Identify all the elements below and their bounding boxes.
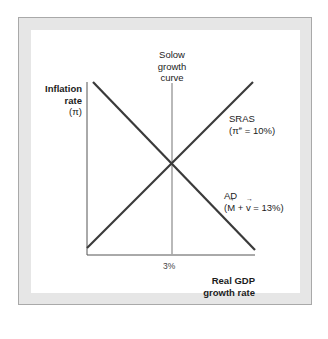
sras-label: SRAS (πe = 10%) [229,113,275,136]
solow-curve-label: Solow growth curve [140,49,204,84]
ad-expression: (M + v = 13%) [224,202,284,214]
ad-money-growth-vector: M [227,202,235,214]
x-axis-label-line2: growth rate [190,287,255,299]
y-axis-label-line3: (π) [36,106,82,118]
sras-value: = 10%) [242,125,275,136]
solow-label-line2: growth [140,61,204,73]
x-axis-label: Real GDP growth rate [190,275,255,298]
solow-label-line3: curve [140,72,204,84]
y-axis-label: Inflation rate (π) [36,83,82,118]
y-axis-label-line2: rate [36,95,82,107]
sras-name: SRAS [229,113,275,125]
solow-label-line1: Solow [140,49,204,61]
sras-pi: (π [229,125,239,136]
sras-expectation: (πe = 10%) [229,125,275,137]
ad-velocity-vector: v [246,202,251,214]
ad-label: AD (M + v = 13%) [224,190,284,213]
ad-value: = 13%) [251,202,284,213]
x-axis-label-line1: Real GDP [190,275,255,287]
ad-curve [93,82,255,250]
ad-plus: + [235,202,246,213]
x-tick-3-percent: 3% [163,261,175,273]
y-axis-label-line1: Inflation [36,83,82,95]
